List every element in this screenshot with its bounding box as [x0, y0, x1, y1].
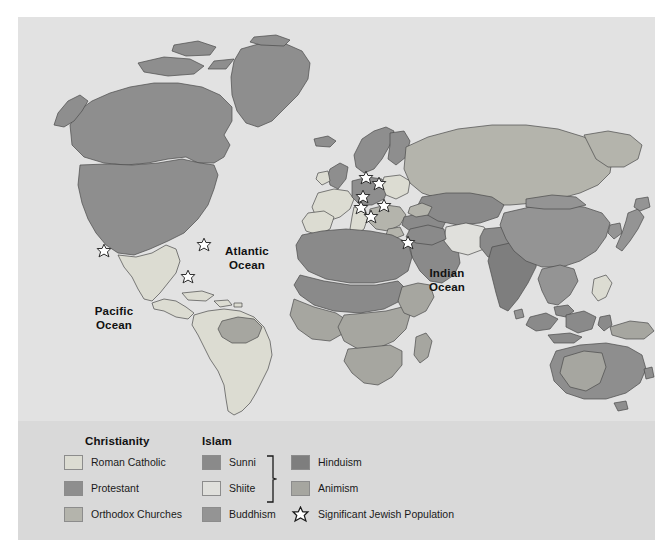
region-sri-lanka[interactable] — [514, 309, 524, 319]
region-russia[interactable] — [404, 125, 612, 205]
legend-label-shiite: Shiite — [229, 480, 255, 497]
legend-label-jewish-population: Significant Jewish Population — [318, 506, 454, 523]
legend-label-roman-catholic: Roman Catholic — [91, 454, 166, 471]
islam-group-bracket — [265, 455, 277, 503]
legend-label-protestant: Protestant — [91, 480, 139, 497]
legend-label-orthodox-churches: Orthodox Churches — [91, 506, 182, 523]
world-religions-figure: .cat { fill:#dcdcd2; } /* Roman Catholic… — [0, 0, 670, 555]
map-area[interactable]: .cat { fill:#dcdcd2; } /* Roman Catholic… — [18, 17, 655, 421]
legend-swatch-hinduism — [291, 455, 310, 470]
legend-swatch-buddhism — [202, 507, 221, 522]
legend-swatch-protestant — [64, 481, 83, 496]
legend-swatch-sunni — [202, 455, 221, 470]
legend-swatch-animism — [291, 481, 310, 496]
legend-label-animism: Animism — [318, 480, 358, 497]
star-of-david-icon — [291, 506, 310, 523]
region-new-zealand-n[interactable] — [644, 367, 654, 379]
legend-heading-christianity: Christianity — [85, 435, 149, 447]
legend-swatch-roman-catholic — [64, 455, 83, 470]
world-map-svg[interactable]: .cat { fill:#dcdcd2; } /* Roman Catholic… — [18, 17, 655, 421]
legend-label-hinduism: Hinduism — [318, 454, 362, 471]
legend-label-sunni: Sunni — [229, 454, 256, 471]
region-caribbean-puertorico[interactable] — [234, 303, 242, 307]
map-legend: Christianity Roman Catholic Protestant O… — [18, 421, 655, 540]
map-plate: .cat { fill:#dcdcd2; } /* Roman Catholic… — [18, 17, 655, 540]
legend-heading-islam: Islam — [202, 435, 232, 447]
legend-swatch-orthodox-churches — [64, 507, 83, 522]
legend-swatch-shiite — [202, 481, 221, 496]
legend-label-buddhism: Buddhism — [229, 506, 276, 523]
